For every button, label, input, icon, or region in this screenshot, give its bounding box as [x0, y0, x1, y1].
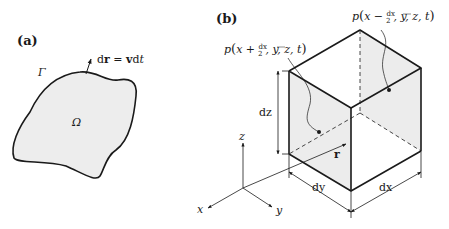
panel-b-label: (b): [216, 11, 237, 26]
axis-z-label: z: [238, 130, 245, 143]
axis-x-label: x: [197, 203, 204, 216]
figure: (a) dr = vdt Γ Ω (b): [0, 0, 449, 229]
panel-a-label: (a): [17, 33, 38, 48]
boundary-label: Γ: [37, 66, 46, 79]
pressure-point-right: [387, 88, 391, 92]
panel-b: (b) dz dy: [197, 8, 435, 218]
axis-y-label: y: [275, 204, 283, 217]
domain-label: Ω: [71, 116, 81, 129]
position-vector-label: r: [334, 148, 340, 161]
dim-dz-label: dz: [259, 106, 272, 119]
pressure-left-label: p(x + dx2, y, z, t): [224, 41, 307, 58]
pressure-point-left: [317, 130, 321, 134]
velocity-label: dr = vdt: [97, 53, 145, 66]
dim-dy-label: dy: [312, 181, 326, 194]
dim-dz: [278, 71, 289, 154]
dim-dx-label: dx: [379, 181, 393, 194]
pressure-right-label: p(x − dx2, y, z, t): [352, 8, 435, 25]
panel-a: (a) dr = vdt Γ Ω: [13, 33, 145, 178]
